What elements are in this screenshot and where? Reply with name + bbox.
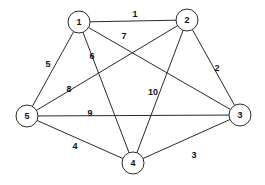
node-5: 5: [16, 105, 38, 127]
edge-weight-label: 10: [148, 87, 158, 97]
edge-1-4: [79, 22, 133, 163]
node-4: 4: [122, 152, 144, 174]
edge-5-3: [27, 115, 240, 116]
edge-weight-label: 4: [72, 141, 77, 151]
edge-weight-label: 8: [66, 84, 71, 94]
node-label: 2: [184, 15, 189, 25]
node-label: 3: [237, 110, 242, 120]
edges-layer: [27, 20, 240, 163]
edge-5-1: [27, 22, 79, 116]
node-label: 4: [130, 158, 135, 168]
edge-3-4: [133, 115, 240, 163]
node-2: 2: [176, 9, 198, 31]
edge-1-2: [79, 20, 187, 22]
node-3: 3: [229, 104, 251, 126]
edge-weight-label: 1: [132, 9, 137, 19]
edge-weight-label: 7: [121, 31, 126, 41]
edge-weight-label: 5: [45, 59, 50, 69]
edge-weight-label: 9: [87, 108, 92, 118]
node-label: 5: [24, 111, 29, 121]
graph-diagram: 12345678910 12345: [0, 0, 265, 185]
node-label: 1: [76, 17, 81, 27]
edge-weight-label: 6: [89, 51, 94, 61]
edge-weight-label: 3: [191, 150, 196, 160]
nodes-layer: 12345: [16, 9, 251, 174]
edge-4-5: [27, 116, 133, 163]
edge-2-4: [133, 20, 187, 163]
node-1: 1: [68, 11, 90, 33]
edge-weight-label: 2: [214, 63, 219, 73]
edge-2-5: [27, 20, 187, 116]
